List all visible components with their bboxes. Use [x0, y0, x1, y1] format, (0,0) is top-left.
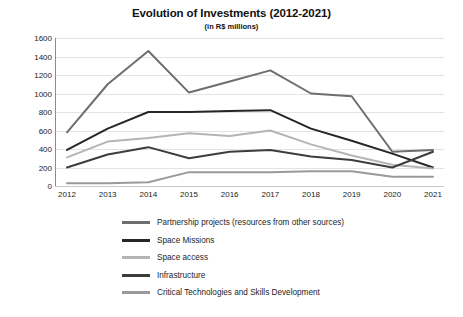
y-axis-tick-label: 600 — [18, 126, 52, 135]
x-axis-tick-label: 2014 — [139, 190, 157, 199]
y-axis-tick-label: 800 — [18, 108, 52, 117]
y-axis-tick-label: 1600 — [18, 34, 52, 43]
chart-title: Evolution of Investments (2012-2021) — [0, 7, 463, 19]
legend-item[interactable]: Critical Technologies and Skills Develop… — [122, 284, 422, 302]
chart-subtitle: (in R$ millions) — [0, 22, 463, 31]
x-axis-tick-label: 2016 — [221, 190, 239, 199]
y-axis-tick-label: 1000 — [18, 89, 52, 98]
legend-item-label: Infrastructure — [157, 271, 205, 280]
gridline — [56, 186, 444, 187]
x-axis-tick-label: 2020 — [383, 190, 401, 199]
legend-item-label: Critical Technologies and Skills Develop… — [157, 288, 320, 297]
x-axis-tick-label: 2015 — [180, 190, 198, 199]
legend-color-swatch — [122, 239, 150, 242]
series-lines — [56, 38, 444, 186]
y-axis-tick-label: 200 — [18, 163, 52, 172]
legend-color-swatch — [122, 256, 150, 259]
x-axis-tick-label: 2012 — [58, 190, 76, 199]
legend-item[interactable]: Partnership projects (resources from oth… — [122, 214, 422, 232]
x-axis-tick-label: 2017 — [261, 190, 279, 199]
x-axis-tick-label: 2013 — [99, 190, 117, 199]
legend-color-swatch — [122, 291, 150, 294]
x-axis-tick-labels: 2012201320142015201620172018201920202021 — [56, 190, 444, 204]
legend-item[interactable]: Space access — [122, 249, 422, 267]
legend-item-label: Partnership projects (resources from oth… — [157, 218, 344, 227]
series-line — [67, 171, 433, 183]
legend-item[interactable]: Infrastructure — [122, 267, 422, 285]
x-axis-tick-label: 2021 — [424, 190, 442, 199]
legend-item[interactable]: Space Missions — [122, 232, 422, 250]
x-axis-tick-label: 2018 — [302, 190, 320, 199]
series-line — [67, 110, 433, 167]
y-axis-tick-label: 400 — [18, 145, 52, 154]
chart-container: Evolution of Investments (2012-2021) (in… — [0, 0, 463, 317]
y-axis-tick-label: 1400 — [18, 52, 52, 61]
y-axis-tick-label: 1200 — [18, 71, 52, 80]
series-line — [67, 51, 433, 152]
plot-area — [56, 38, 444, 186]
legend-item-label: Space Missions — [157, 236, 214, 245]
y-axis-tick-labels: 02004006008001000120014001600 — [18, 38, 52, 186]
y-axis-tick-label: 0 — [18, 182, 52, 191]
legend-color-swatch — [122, 221, 150, 224]
series-line — [67, 147, 433, 167]
x-axis-tick-label: 2019 — [343, 190, 361, 199]
legend-color-swatch — [122, 274, 150, 277]
legend-item-label: Space access — [157, 253, 208, 262]
chart-legend: Partnership projects (resources from oth… — [122, 214, 422, 302]
